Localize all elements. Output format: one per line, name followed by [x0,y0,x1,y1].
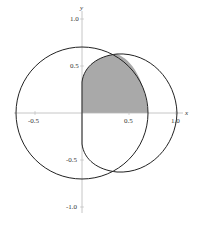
y-tick-label: 1.0 [70,15,79,23]
y-tick-label: 0.5 [70,62,79,70]
x-tick-label: 1.0 [171,117,180,125]
x-tick-label: 0.5 [124,117,133,125]
y-axis-label: y [79,4,84,12]
y-tick-label: -1.0 [66,203,78,211]
x-tick-label: -0.5 [28,117,40,125]
x-axis-label: x [184,109,189,117]
y-tick-label: -0.5 [66,156,78,164]
shaded-region [82,54,148,113]
plot-canvas: -0.5 0.5 1.0 x 1.0 0.5 -0.5 -1.0 y [0,0,200,226]
